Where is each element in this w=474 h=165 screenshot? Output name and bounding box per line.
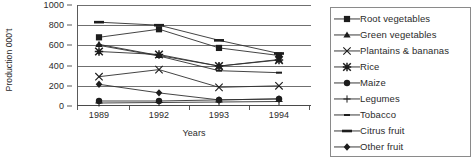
series-green-vegetables — [95, 41, 282, 69]
y-axis-tick-label: 600 — [49, 40, 64, 50]
legend-item[interactable]: Green vegetables — [334, 27, 468, 43]
y-axis-tick-mark — [67, 106, 72, 107]
y-axis-tick-mark — [67, 65, 72, 66]
y-axis-tick-mark — [67, 5, 72, 6]
y-axis-title: Production 000't — [2, 12, 16, 108]
y-axis-tick-label: 200 — [49, 81, 64, 91]
legend-item-label: Tobacco — [360, 107, 396, 123]
x-axis-tick-label: 1993 — [209, 110, 229, 120]
line-chart: Production 000't 10008006004002000 19891… — [0, 0, 325, 165]
y-axis-tick-label: 1000 — [44, 0, 64, 10]
legend-item-label: Plantains & bananas — [360, 43, 449, 59]
y-axis-tick-label: 800 — [49, 20, 64, 30]
legend-item[interactable]: Root vegetables — [334, 11, 468, 27]
legend-marker-icon — [334, 11, 360, 27]
y-axis-tick-mark — [67, 25, 72, 26]
y-axis-tick-mark — [67, 85, 72, 86]
legend-item[interactable]: Rice — [334, 59, 468, 75]
legend-marker-icon — [334, 43, 360, 59]
legend-item[interactable]: Maize — [334, 75, 468, 91]
legend-marker-icon — [334, 91, 360, 107]
legend-marker-icon — [334, 123, 360, 139]
legend-item[interactable]: Legumes — [334, 91, 468, 107]
x-axis-tick-labels: 1989199219931994 — [77, 110, 311, 124]
legend-item-label: Green vegetables — [360, 27, 437, 43]
legend-item-label: Maize — [360, 75, 386, 91]
legend-item[interactable]: Tobacco — [334, 107, 468, 123]
chart-figure: Production 000't 10008006004002000 19891… — [0, 0, 474, 165]
y-axis-title-text: Production 000't — [4, 29, 14, 92]
legend-item[interactable]: Citrus fruit — [334, 123, 468, 139]
x-axis-tick-label: 1992 — [149, 110, 169, 120]
series-rice — [95, 47, 283, 70]
legend-item-label: Rice — [360, 59, 379, 75]
legend-marker-icon — [334, 107, 360, 123]
legend-item-label: Legumes — [360, 91, 400, 107]
plot-area — [77, 5, 311, 106]
legend-marker-icon — [334, 59, 360, 75]
series-plantains-bananas — [95, 66, 282, 91]
series-root-vegetables — [96, 26, 282, 58]
legend-item-label: Other fruit — [360, 139, 403, 155]
y-axis-tick-mark — [67, 45, 72, 46]
x-axis-title: Years — [77, 128, 311, 138]
y-axis-tick-labels: 10008006004002000 — [16, 5, 72, 113]
legend-item[interactable]: Other fruit — [334, 139, 468, 155]
legend-marker-icon — [334, 75, 360, 91]
legend: Root vegetablesGreen vegetablesPlantains… — [330, 7, 471, 157]
y-axis-tick-label: 0 — [59, 101, 64, 111]
y-axis-tick-label: 400 — [49, 61, 64, 71]
x-axis-tick-label: 1994 — [269, 110, 289, 120]
legend-item[interactable]: Plantains & bananas — [334, 43, 468, 59]
series-lines — [77, 5, 311, 106]
x-axis-tick-label: 1989 — [89, 110, 109, 120]
legend-item-label: Citrus fruit — [360, 123, 404, 139]
legend-marker-icon — [334, 139, 360, 155]
legend-marker-icon — [334, 27, 360, 43]
legend-item-label: Root vegetables — [360, 11, 430, 27]
